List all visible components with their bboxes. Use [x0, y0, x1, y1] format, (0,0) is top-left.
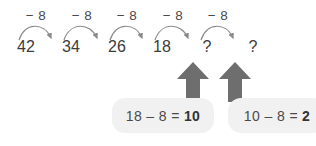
term-1: 42: [9, 38, 43, 56]
term-3: 26: [100, 38, 134, 56]
step-label-2: − 8: [59, 8, 105, 23]
callout-box-2: 10 – 8 = 2: [228, 98, 316, 133]
term-4: 18: [145, 38, 179, 56]
step-label-3: − 8: [104, 8, 150, 23]
callout-box-1: 18 – 8 = 10: [112, 98, 214, 133]
step-label-5: − 8: [195, 8, 241, 23]
step-label-4: − 8: [150, 8, 196, 23]
callout-result-1: 10: [184, 108, 200, 124]
step-label-1: − 8: [13, 8, 59, 23]
term-2: 34: [54, 38, 88, 56]
term-6-unknown: ?: [236, 38, 270, 56]
callout-expression-1: 18 – 8 =: [126, 108, 180, 124]
callout-result-2: 2: [302, 108, 310, 124]
diagram-canvas: − 8 − 8 − 8 − 8 − 8 42 34 26 18 ? ? 18 –…: [0, 0, 316, 146]
callout-expression-2: 10 – 8 =: [244, 108, 298, 124]
pointer-arrow-1: [177, 62, 209, 102]
term-5-unknown: ?: [190, 38, 224, 56]
pointer-arrow-2: [219, 62, 251, 102]
